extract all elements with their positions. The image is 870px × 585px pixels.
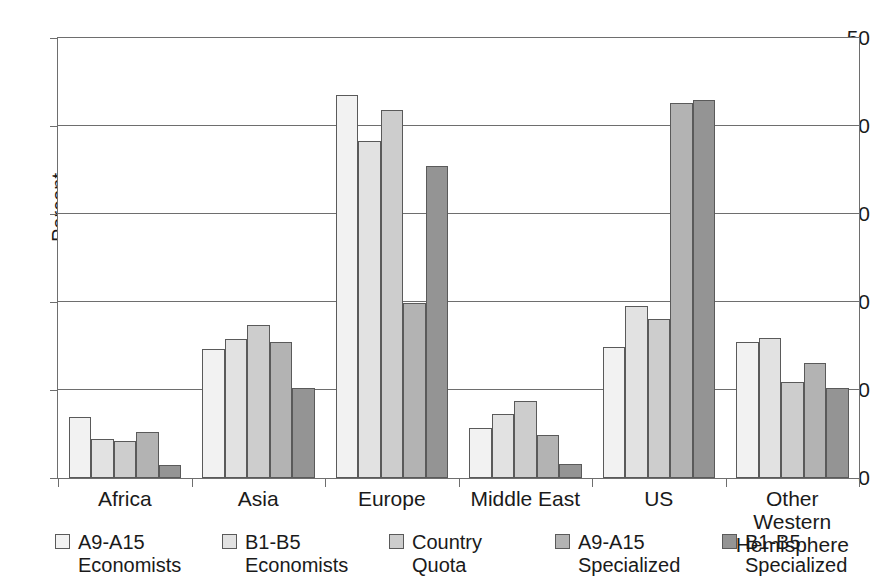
bar [202,349,225,478]
x-category-label: Asia [192,487,326,510]
bar-cluster [469,38,582,478]
bar [804,363,827,478]
legend-item[interactable]: B1-B5 Specialized [722,531,847,577]
legend-item[interactable]: B1-B5 Economists [222,531,348,577]
bar [559,464,582,478]
bar [426,166,449,478]
bar [469,428,492,478]
x-tick-mark [459,479,460,487]
bar-cluster [603,38,716,478]
bar [381,110,404,478]
y-tick-mark-50 [50,38,57,39]
bar [514,401,537,478]
bar [358,141,381,478]
legend-label: Country Quota [412,531,482,577]
x-category-label: Middle East [459,487,593,510]
x-category-label: US [592,487,726,510]
bar [247,325,270,478]
bar [826,388,849,478]
bar [781,382,804,478]
bar [736,342,759,478]
legend-swatch [555,534,570,549]
x-tick-mark [726,479,727,487]
bar [270,342,293,478]
y-tick-mark-40 [50,126,57,127]
y-tick-mark-20 [50,302,57,303]
legend-label: A9-A15 Specialized [578,531,680,577]
x-tick-mark [325,479,326,487]
bar-cluster [336,38,449,478]
x-tick-mark [58,479,59,487]
legend-swatch [222,534,237,549]
x-tick-mark [592,479,593,487]
y-tick-mark-10 [50,390,57,391]
bar [603,347,626,478]
bar [292,388,315,478]
x-tick-mark [859,479,860,487]
bar [648,319,671,478]
bar [91,439,114,478]
bars-layer [58,38,859,478]
legend-swatch [389,534,404,549]
x-category-label: Europe [325,487,459,510]
bar [69,417,92,478]
legend-item[interactable]: A9-A15 Economists [55,531,181,577]
legend-label: A9-A15 Economists [78,531,181,577]
bar [336,95,359,478]
y-tick-mark-0 [50,478,57,479]
bar [403,303,426,478]
bar [159,465,182,478]
legend-swatch [55,534,70,549]
chart-legend: A9-A15 EconomistsB1-B5 EconomistsCountry… [55,531,865,585]
legend-item[interactable]: Country Quota [389,531,482,577]
bar [225,339,248,478]
bar [670,103,693,478]
legend-label: B1-B5 Economists [245,531,348,577]
bar-cluster [202,38,315,478]
x-tick-mark [192,479,193,487]
legend-label: B1-B5 Specialized [745,531,847,577]
bar [759,338,782,478]
bar [625,306,648,478]
legend-item[interactable]: A9-A15 Specialized [555,531,680,577]
bar [114,441,137,478]
bar [136,432,159,478]
x-category-label: Africa [58,487,192,510]
bar-cluster [69,38,182,478]
y-tick-mark-30 [50,214,57,215]
legend-swatch [722,534,737,549]
grouped-bar-chart: Percent 01020304050 AfricaAsiaEuropeMidd… [0,0,870,585]
bar [537,435,560,478]
bar-cluster [736,38,849,478]
bar [492,414,515,478]
bar [693,100,716,478]
